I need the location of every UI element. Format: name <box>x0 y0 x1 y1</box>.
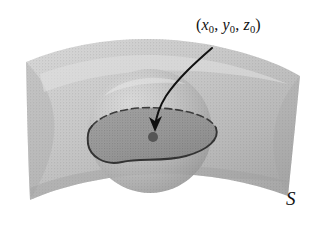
surface-name-label: S <box>286 188 296 210</box>
x-variable: x <box>202 16 209 33</box>
point-coordinates-label: (x0, y0, z0) <box>196 16 261 35</box>
surface-sphere-diagram <box>0 0 321 238</box>
comma-1: , <box>214 16 218 33</box>
y-variable: y <box>223 16 230 33</box>
comma-2: , <box>235 16 239 33</box>
point-dot <box>148 132 158 142</box>
close-paren: ) <box>255 16 261 33</box>
figure-container: (x0, y0, z0) S <box>0 0 321 238</box>
